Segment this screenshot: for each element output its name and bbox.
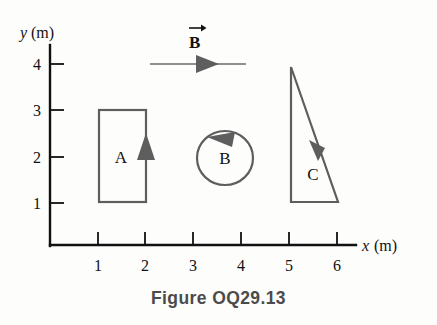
loop-c-label: C [307,165,318,184]
figure-container: 4 3 2 1 1 2 3 4 5 6 x (m) y [0,0,437,325]
loop-b-group: B [197,131,253,185]
x-tick-label-4: 4 [237,257,245,274]
loop-c-group: C [291,67,338,202]
x-tick-label-2: 2 [141,257,149,274]
loop-a-current-arrowhead-icon [137,133,155,160]
y-axis-symbol: y [18,24,28,42]
x-axis-symbol: x [361,237,369,254]
y-tick-label-2: 2 [33,149,41,166]
x-axis-unit: (m) [374,237,397,255]
field-label: B [189,33,200,52]
y-axis-title: y (m) [18,24,54,42]
loop-a-label: A [115,148,128,167]
magnetic-field-vector: B [150,25,246,74]
field-arrowhead-icon [196,55,219,73]
y-tick-label-4: 4 [33,56,41,73]
x-tick-label-6: 6 [333,257,341,274]
x-tick-label-3: 3 [189,257,197,274]
figure-diagram: 4 3 2 1 1 2 3 4 5 6 x (m) y [0,0,437,325]
loop-a-group: A [99,110,155,202]
figure-caption: Figure OQ29.13 [0,288,437,309]
y-tick-label-3: 3 [33,102,41,119]
loop-b-label: B [219,149,230,168]
x-axis-title: x (m) [361,237,397,255]
y-axis-unit: (m) [31,24,54,42]
x-tick-label-1: 1 [94,257,102,274]
x-tick-label-5: 5 [285,257,293,274]
y-tick-label-1: 1 [33,195,41,212]
y-axis-ticks [50,64,64,203]
y-axis-tick-labels: 4 3 2 1 [33,56,41,212]
axis-group [50,45,356,246]
x-axis-tick-labels: 1 2 3 4 5 6 [94,257,341,274]
x-axis-ticks [98,232,337,245]
vector-overline-icon [189,25,207,32]
